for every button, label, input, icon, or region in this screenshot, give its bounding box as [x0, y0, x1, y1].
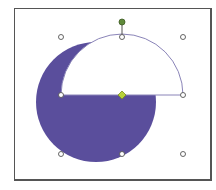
- rotation-handle[interactable]: [119, 19, 125, 25]
- resize-handle-right[interactable]: [181, 93, 186, 98]
- resize-handle-bottom-left[interactable]: [59, 152, 64, 157]
- resize-handle-top-left[interactable]: [59, 35, 64, 40]
- resize-handle-top[interactable]: [120, 35, 125, 40]
- resize-handle-left[interactable]: [59, 93, 64, 98]
- resize-handle-bottom[interactable]: [120, 152, 125, 157]
- drawing-canvas: [0, 0, 216, 190]
- semicircle-shape[interactable]: [61, 34, 183, 95]
- resize-handle-bottom-right[interactable]: [181, 152, 186, 157]
- resize-handle-top-right[interactable]: [181, 35, 186, 40]
